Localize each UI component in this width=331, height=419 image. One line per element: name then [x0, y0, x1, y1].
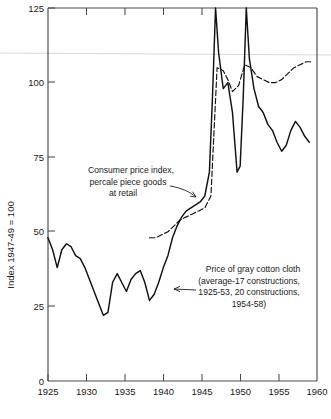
x-tick-label-1960: 1960	[306, 386, 327, 397]
cloth-annotation-line-3: 1925-53, 20 constructions,	[198, 287, 299, 297]
y-tick-label-75: 75	[33, 152, 44, 163]
cloth-annotation-line-4: 1954-58)	[232, 299, 267, 309]
y-tick-label-50: 50	[33, 226, 44, 237]
line-chart: 125 100 75 50 25 0 1925 1930 1935 1940	[0, 0, 331, 419]
cpi-annotation-line-3: at retail	[109, 188, 137, 198]
cpi-annotation-line-2: percale piece goods	[90, 177, 167, 187]
y-axis-ticks	[48, 8, 55, 306]
cloth-annotation: Price of gray cotton cloth (average-17 c…	[198, 264, 300, 309]
x-tick-label-1925: 1925	[37, 386, 58, 397]
cpi-annotation-line-1: Consumer price index,	[88, 165, 174, 175]
cpi-annotation: Consumer price index, percale piece good…	[88, 165, 174, 198]
x-tick-label-1955: 1955	[268, 386, 289, 397]
cloth-leader-line	[174, 286, 196, 291]
x-tick-label-1935: 1935	[114, 386, 135, 397]
x-tick-label-1940: 1940	[153, 386, 174, 397]
x-tick-label-1950: 1950	[230, 386, 251, 397]
cloth-annotation-line-1: Price of gray cotton cloth	[206, 264, 301, 274]
cloth-annotation-line-2: (average-17 constructions,	[198, 276, 300, 286]
y-axis-title: Index 1947-49 = 100	[5, 201, 16, 288]
faint-gridline	[0, 53, 331, 55]
x-tick-label-1930: 1930	[76, 386, 97, 397]
chart-container: 125 100 75 50 25 0 1925 1930 1935 1940	[0, 0, 331, 419]
consumer-price-index-series	[149, 62, 312, 238]
y-axis-tick-labels: 125 100 75 50 25 0	[28, 3, 44, 388]
y-tick-label-100: 100	[28, 77, 44, 88]
y-tick-label-25: 25	[33, 301, 44, 312]
x-axis-tick-labels: 1925 1930 1935 1940 1945 1950 1955 1960	[37, 386, 327, 397]
y-tick-label-125: 125	[28, 3, 44, 14]
x-tick-label-1945: 1945	[191, 386, 212, 397]
cpi-leader-line	[170, 186, 196, 197]
